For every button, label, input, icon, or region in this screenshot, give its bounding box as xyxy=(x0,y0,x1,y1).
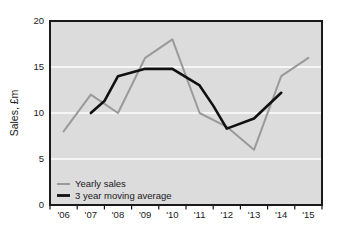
x-tick-label: '09 xyxy=(139,209,151,220)
y-tick-label: 5 xyxy=(39,153,44,164)
x-tick-label: '10 xyxy=(166,209,178,220)
x-tick-label: '08 xyxy=(112,209,124,220)
y-axis-title: Sales, £m xyxy=(8,89,20,136)
chart-container: 05101520 '06'07'08'09'10'11'12'13'14'15 … xyxy=(0,0,338,233)
x-tick-label: '07 xyxy=(85,209,97,220)
x-tick-label: '14 xyxy=(275,209,287,220)
x-tick-label: '11 xyxy=(194,209,206,220)
y-tick-label: 0 xyxy=(39,199,44,210)
legend-label: Yearly sales xyxy=(75,178,126,189)
x-tick-label: '12 xyxy=(221,209,233,220)
y-tick-label: 10 xyxy=(33,107,44,118)
legend-label: 3 year moving average xyxy=(75,190,172,201)
x-tick-label: '06 xyxy=(57,209,69,220)
chart-canvas: 05101520 '06'07'08'09'10'11'12'13'14'15 … xyxy=(0,0,338,233)
x-tick-label: '13 xyxy=(248,209,260,220)
y-tick-label: 15 xyxy=(33,61,44,72)
y-axis-title-text: Sales, £m xyxy=(8,89,20,136)
y-tick-label: 20 xyxy=(33,15,44,26)
x-tick-label: '15 xyxy=(302,209,314,220)
